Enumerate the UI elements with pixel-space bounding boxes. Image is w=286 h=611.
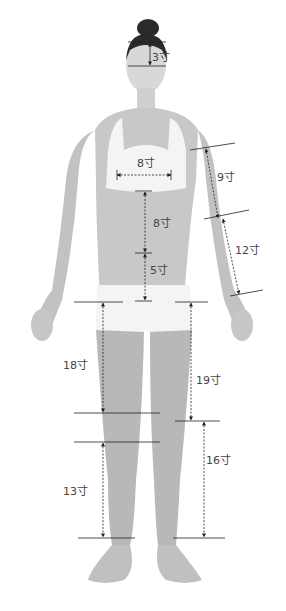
label-upper-abdomen: 8寸 [153,218,171,230]
label-forearm: 12寸 [235,245,260,257]
label-lower-leg-inner: 13寸 [63,486,88,498]
label-upper-arm: 9寸 [217,172,235,184]
label-chest-width: 8寸 [137,158,155,170]
body-measurement-diagram: 3寸 8寸 8寸 5寸 9寸 12寸 18寸 19寸 13寸 16寸 [0,0,286,611]
label-lower-leg-outer: 16寸 [206,455,231,467]
label-forehead: 3寸 [152,52,170,64]
label-lower-abdomen: 5寸 [150,265,168,277]
label-thigh-outer: 19寸 [196,375,221,387]
label-thigh-inner: 18寸 [63,360,88,372]
figure-svg [0,0,286,611]
